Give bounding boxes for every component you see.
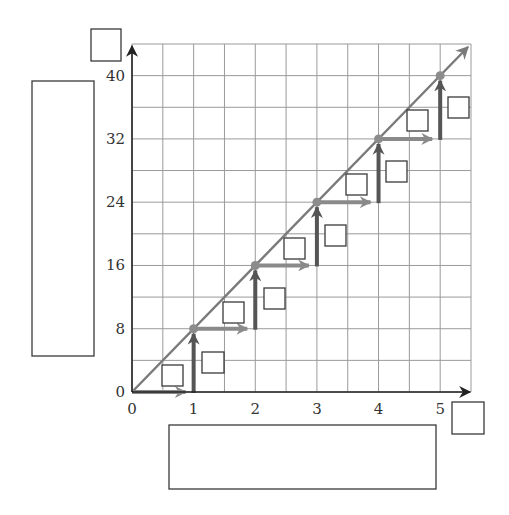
x-axis-label-box[interactable] xyxy=(452,402,484,434)
y-tick-label: 32 xyxy=(106,130,125,148)
run-label-box[interactable] xyxy=(162,365,183,386)
y-tick-label: 8 xyxy=(115,320,125,338)
y-tick-label: 0 xyxy=(115,383,125,401)
x-tick-label: 3 xyxy=(312,400,322,418)
data-point xyxy=(312,198,321,207)
y-tick-label: 40 xyxy=(106,67,125,85)
staircase-line-chart: 012345 0816243240 xyxy=(0,0,509,515)
run-label-box[interactable] xyxy=(284,238,305,259)
data-point xyxy=(436,71,445,80)
run-label-box[interactable] xyxy=(223,302,244,323)
line-arrow xyxy=(132,47,468,392)
rise-label-box[interactable] xyxy=(202,352,224,373)
x-tick-label: 4 xyxy=(374,400,384,418)
proportional-line xyxy=(132,47,468,392)
y-tick-labels: 0816243240 xyxy=(106,67,125,401)
x-tick-labels: 012345 xyxy=(127,400,445,418)
y-description-box[interactable] xyxy=(32,81,94,356)
answer-boxes xyxy=(32,29,484,489)
data-point xyxy=(374,134,383,143)
x-tick-label: 1 xyxy=(189,400,199,418)
x-tick-label: 0 xyxy=(127,400,137,418)
rise-label-box[interactable] xyxy=(386,161,407,182)
y-axis-label-box[interactable] xyxy=(91,29,121,61)
data-point xyxy=(189,324,198,333)
rise-label-box[interactable] xyxy=(264,288,285,309)
data-point xyxy=(251,261,260,270)
y-tick-label: 24 xyxy=(106,193,125,211)
run-label-box[interactable] xyxy=(346,174,367,195)
x-description-box[interactable] xyxy=(169,425,436,489)
x-tick-label: 5 xyxy=(435,400,445,418)
rise-label-box[interactable] xyxy=(325,225,346,246)
y-tick-label: 16 xyxy=(106,256,125,274)
run-label-box[interactable] xyxy=(407,110,428,131)
rise-label-box[interactable] xyxy=(448,97,469,118)
x-tick-label: 2 xyxy=(250,400,260,418)
